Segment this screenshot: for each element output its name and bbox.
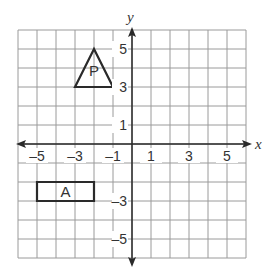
x-tick-label: 5 bbox=[223, 148, 231, 164]
x-tick-label: –5 bbox=[29, 148, 45, 164]
x-tick-label: 1 bbox=[147, 148, 155, 164]
x-tick-label: –3 bbox=[67, 148, 83, 164]
x-tick-label: –1 bbox=[105, 148, 121, 164]
x-axis-label: x bbox=[254, 136, 262, 152]
y-axis-label: y bbox=[125, 9, 134, 25]
y-tick-label: –3 bbox=[111, 193, 127, 209]
y-tick-label: 3 bbox=[119, 79, 127, 95]
x-tick-label: 3 bbox=[185, 148, 193, 164]
shape-label-p: P bbox=[89, 62, 99, 79]
shape-label-a: A bbox=[60, 183, 70, 200]
y-tick-label: 1 bbox=[119, 117, 127, 133]
y-tick-label: 5 bbox=[119, 41, 127, 57]
axes: xy bbox=[16, 9, 262, 267]
y-tick-label: –5 bbox=[111, 231, 127, 247]
coordinate-plane: xy PA –5–3–1135531–3–5 bbox=[0, 0, 271, 276]
